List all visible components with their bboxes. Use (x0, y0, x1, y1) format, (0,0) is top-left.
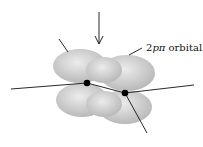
bond-lines (11, 39, 194, 133)
atom-dot (122, 90, 129, 97)
arrow-down-icon (95, 12, 103, 44)
orbital-label: 2pπ orbital (146, 42, 202, 53)
atom-dot (84, 80, 91, 87)
orbital-diagram (0, 0, 203, 147)
